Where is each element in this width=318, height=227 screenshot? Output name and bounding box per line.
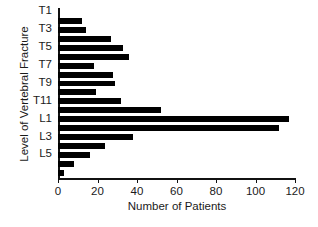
bar — [58, 54, 129, 60]
bar — [58, 18, 82, 24]
x-tick-label: 20 — [78, 185, 118, 197]
bar-row: L3 — [58, 133, 295, 142]
y-tick-label: L5 — [39, 147, 52, 159]
bar — [58, 72, 113, 78]
bar-row — [58, 124, 295, 133]
x-tick-mark — [295, 178, 296, 183]
x-tick-label: 120 — [275, 185, 315, 197]
y-tick-label: T1 — [39, 4, 52, 16]
y-tick-label: L3 — [39, 130, 52, 142]
bar — [58, 125, 279, 131]
y-tick-label: T3 — [39, 22, 52, 34]
bar — [58, 45, 123, 51]
bar — [58, 107, 161, 113]
vertebral-fracture-bar-chart: Level of Vertebral Fracture T1T3T5T7T9T1… — [0, 0, 318, 227]
x-tick-label: 60 — [157, 185, 197, 197]
x-tick-mark — [177, 178, 178, 183]
bar — [58, 98, 121, 104]
plot-area: T1T3T5T7T9T11L1L3L5 — [58, 8, 295, 178]
y-axis-title: Level of Vertebral Fracture — [16, 4, 32, 184]
bar-row — [58, 160, 295, 169]
x-tick-label: 80 — [196, 185, 236, 197]
bar — [58, 152, 90, 158]
bar-row — [58, 142, 295, 151]
x-axis-title: Number of Patients — [58, 200, 296, 212]
x-tick-label: 40 — [117, 185, 157, 197]
bar — [58, 27, 86, 33]
bar — [58, 143, 105, 149]
bar-row — [58, 71, 295, 80]
x-tick-label: 100 — [236, 185, 276, 197]
x-tick-mark — [216, 178, 217, 183]
bar — [58, 170, 64, 176]
bar-row: T9 — [58, 80, 295, 89]
y-tick-label: L1 — [39, 112, 52, 124]
bar-row — [58, 17, 295, 26]
y-tick-label: T5 — [39, 40, 52, 52]
y-tick-label: T7 — [39, 58, 52, 70]
bar-row: L1 — [58, 115, 295, 124]
bar-row: T3 — [58, 26, 295, 35]
x-tick-mark — [98, 178, 99, 183]
bar-row: T1 — [58, 8, 295, 17]
bar — [58, 81, 115, 87]
bar-row — [58, 88, 295, 97]
bar — [58, 116, 289, 122]
bar-row: L5 — [58, 151, 295, 160]
y-tick-label: T11 — [33, 94, 52, 106]
caption-strip — [0, 218, 318, 227]
bar-row — [58, 106, 295, 115]
bar — [58, 89, 96, 95]
bar-row — [58, 35, 295, 44]
bar-row: T7 — [58, 62, 295, 71]
bar — [58, 161, 74, 167]
x-tick-mark — [256, 178, 257, 183]
x-tick-mark — [58, 178, 59, 183]
x-tick-mark — [137, 178, 138, 183]
bar-row: T11 — [58, 97, 295, 106]
x-tick-label: 0 — [38, 185, 78, 197]
bar — [58, 36, 111, 42]
bar-row — [58, 169, 295, 178]
y-tick-label: T9 — [39, 76, 52, 88]
bar-row — [58, 53, 295, 62]
bar-row: T5 — [58, 44, 295, 53]
bar — [58, 134, 133, 140]
bar — [58, 63, 94, 69]
